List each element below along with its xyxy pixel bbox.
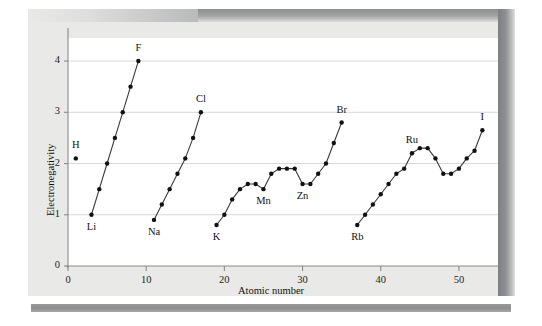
element-label-I: I	[462, 111, 502, 122]
element-label-F: F	[118, 42, 158, 53]
x-tick-label-0: 0	[48, 274, 88, 285]
element-label-Ru: Ru	[392, 134, 432, 145]
element-label-Br: Br	[322, 104, 362, 115]
y-tick-label-0: 0	[28, 259, 60, 270]
element-label-Na: Na	[134, 226, 174, 237]
x-tick-label-20: 20	[204, 274, 244, 285]
figure-page: 0123401020304050 HFLiClNaKMnZnBrRbRuI El…	[0, 0, 542, 326]
element-label-Zn: Zn	[283, 190, 323, 201]
element-label-Li: Li	[71, 221, 111, 232]
axes	[64, 28, 498, 271]
element-label-Rb: Rb	[337, 231, 377, 242]
x-tick-label-50: 50	[439, 274, 479, 285]
bottom-rule-bar	[31, 304, 511, 312]
x-axis-title: Atomic number	[0, 285, 542, 296]
element-label-H: H	[56, 139, 96, 150]
x-tick-label-30: 30	[283, 274, 323, 285]
element-label-K: K	[197, 231, 237, 242]
y-tick-label-3: 3	[28, 105, 60, 116]
x-tick-label-10: 10	[126, 274, 166, 285]
y-axis-title: Electronegativity	[45, 144, 56, 216]
element-label-Mn: Mn	[243, 195, 283, 206]
x-tick-label-40: 40	[361, 274, 401, 285]
y-tick-label-4: 4	[28, 54, 60, 65]
element-label-Cl: Cl	[181, 93, 221, 104]
